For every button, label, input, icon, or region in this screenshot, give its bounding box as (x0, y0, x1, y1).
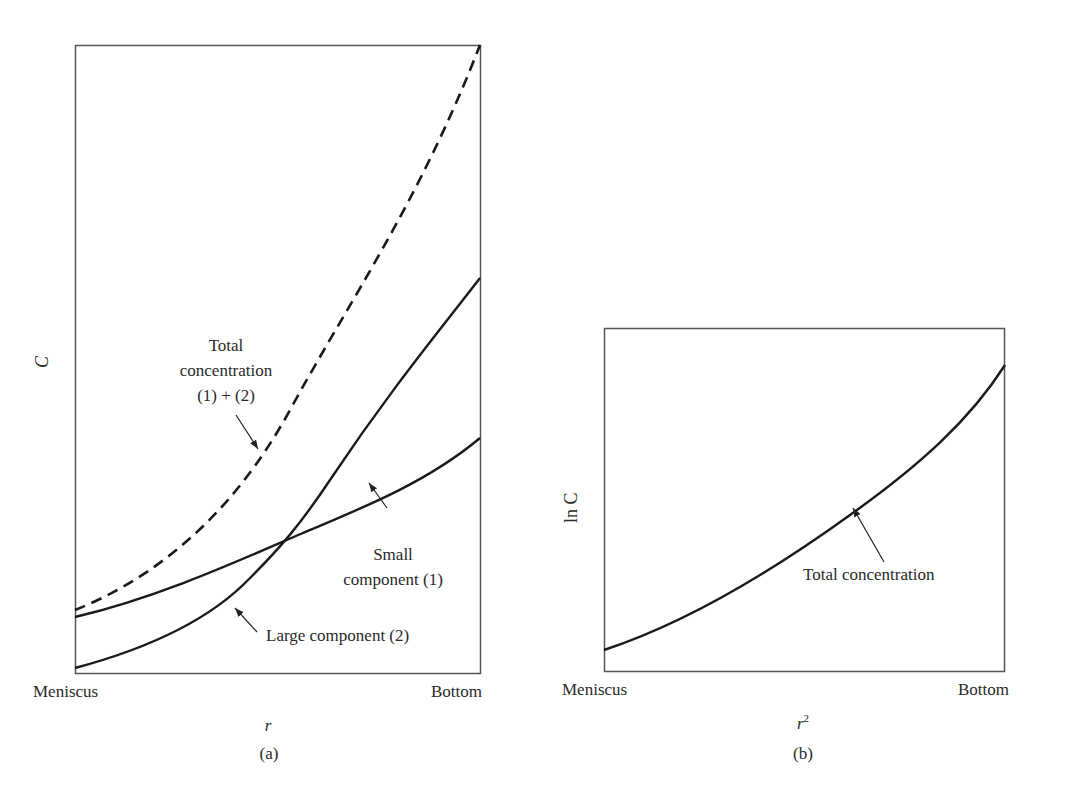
large-arrow (235, 608, 257, 632)
panel-b-label: (b) (793, 744, 813, 764)
small-annotation-line1: Small (373, 545, 413, 565)
panel-b-ylabel-text: ln C (561, 492, 581, 523)
total-annotation-a-line3: (1) + (2) (197, 386, 255, 406)
panel-a-ylabel: C (32, 356, 53, 368)
small-component-curve (75, 438, 480, 617)
total-arrow-a (236, 415, 258, 449)
panel-b-xlabel: r2 (797, 712, 809, 733)
total-concentration-curve-b (604, 365, 1005, 650)
panel-b-ylabel: ln C (561, 492, 582, 523)
panel-a-label: (a) (260, 744, 279, 764)
total-arrow-b (853, 508, 884, 562)
large-annotation: Large component (2) (266, 626, 409, 646)
panel-a-xtick-left: Meniscus (33, 682, 98, 702)
panel-a-plot (0, 0, 1079, 800)
large-component-curve (75, 278, 480, 668)
total-annotation-a-line2: concentration (180, 361, 273, 381)
figure: C Total concentration (1) + (2) Small co… (0, 0, 1079, 800)
small-annotation-line2: component (1) (343, 570, 443, 590)
panel-a-xtick-right: Bottom (431, 682, 482, 702)
total-annotation-a-line1: Total (209, 336, 244, 356)
panel-b-xlabel-base: r (797, 714, 804, 733)
panel-b-xlabel-sup: 2 (804, 712, 810, 724)
total-concentration-curve-a (75, 45, 480, 610)
panel-a-xlabel: r (265, 716, 272, 736)
panel-b-xtick-right: Bottom (958, 680, 1009, 700)
panel-b-frame (605, 329, 1005, 672)
total-annotation-b: Total concentration (803, 565, 934, 585)
panel-b-xtick-left: Meniscus (562, 680, 627, 700)
